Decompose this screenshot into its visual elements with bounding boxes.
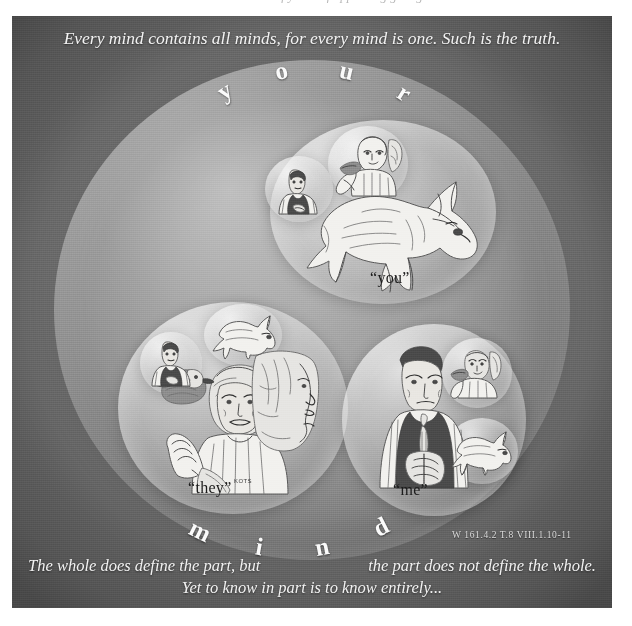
arc-letter-u: u xyxy=(337,57,356,84)
footer-text-block: The whole does define the part, but the … xyxy=(12,556,612,598)
text-layer: Every mind contains all minds, for every… xyxy=(12,16,612,608)
illustration-canvas: and and are of yours of appearing giving xyxy=(0,0,632,626)
caption-me: “me” xyxy=(393,481,428,499)
cut-off-text-top: and and are of yours of appearing giving xyxy=(0,0,632,13)
arc-letter-o: o xyxy=(272,57,290,84)
arc-letter-m: m xyxy=(186,515,216,547)
footer-right-text: the part does not define the whole. xyxy=(368,556,596,576)
caption-you: “you” xyxy=(370,269,410,287)
caption-they: “they” xyxy=(188,479,232,497)
arc-letter-y: y xyxy=(212,77,236,105)
reference-citation: W 161.4.2 T.8 VIII.1.10-11 xyxy=(452,530,572,540)
footer-center-text: Yet to know in part is to know entirely.… xyxy=(12,578,612,598)
arc-letter-r: r xyxy=(393,79,416,106)
banner-quote: Every mind contains all minds, for every… xyxy=(12,28,612,49)
footer-left-text: The whole does define the part, but xyxy=(28,556,260,576)
arc-letter-d: d xyxy=(369,512,393,541)
cut-off-text: and and are of yours of appearing giving xyxy=(209,0,423,1)
artwork-panel: KOTS Every mind contains all minds, for … xyxy=(12,16,612,608)
